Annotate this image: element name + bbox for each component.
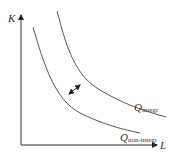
diagram-svg: K L Qintegr Qnon-integr [0,0,175,157]
isoquant-diagram: K L Qintegr Qnon-integr [0,0,175,157]
isoquant-integr-curve [57,11,166,117]
shift-arrow [69,85,80,94]
isoquant-non-integr-curve [33,27,140,133]
y-axis-label: K [7,12,16,24]
x-axis-label: L [159,139,166,151]
label-q-integr: Qintegr [134,101,159,114]
